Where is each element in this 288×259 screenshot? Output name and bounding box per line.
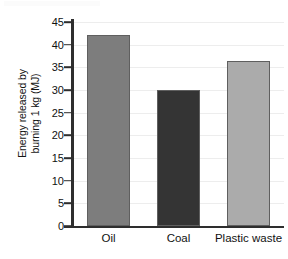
bar-chart: Energy released by burning 1 kg (MJ) 051… bbox=[0, 0, 288, 259]
y-axis-tick-label: 35 bbox=[52, 62, 64, 73]
y-axis-tick-label: 15 bbox=[52, 153, 64, 164]
x-axis-tick-label: Plastic waste bbox=[215, 231, 282, 245]
y-axis-tick-label: 40 bbox=[52, 39, 64, 50]
y-axis-tick-label: 45 bbox=[52, 17, 64, 28]
bar-slot bbox=[157, 22, 200, 226]
y-axis-tick-label: 10 bbox=[52, 175, 64, 186]
y-axis-tick-label: 30 bbox=[52, 85, 64, 96]
y-axis-tick-label: 20 bbox=[52, 130, 64, 141]
y-axis-tick-label: 25 bbox=[52, 107, 64, 118]
bar-series bbox=[74, 22, 284, 226]
bar-oil[interactable] bbox=[87, 35, 130, 226]
bar-slot bbox=[227, 22, 270, 226]
bar-slot bbox=[87, 22, 130, 226]
plot-area bbox=[74, 22, 284, 226]
x-axis-tick-label: Oil bbox=[101, 231, 115, 245]
x-axis-tick-label: Coal bbox=[167, 231, 191, 245]
bar-coal[interactable] bbox=[157, 90, 200, 226]
bar-plastic-waste[interactable] bbox=[227, 61, 270, 226]
y-axis-tick-labels: 051015202530354045 bbox=[38, 22, 64, 226]
y-axis-title-line-1: Energy released by bbox=[16, 69, 29, 158]
x-axis-tick-labels: OilCoalPlastic waste bbox=[74, 231, 284, 251]
